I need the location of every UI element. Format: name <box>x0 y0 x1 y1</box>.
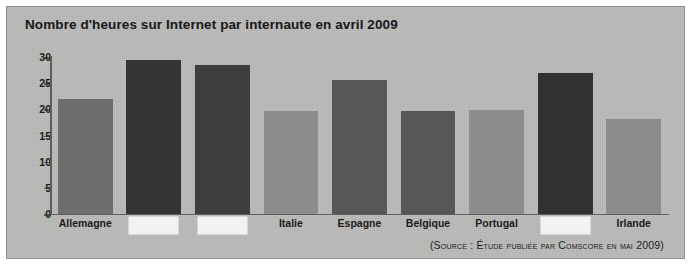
y-axis-tick-label: 5 <box>17 182 51 194</box>
y-axis-tick-label: 30 <box>17 51 51 63</box>
x-axis-category-label: Espagne <box>325 217 394 229</box>
bar <box>126 60 181 214</box>
x-axis-category-label: Belgique <box>394 217 463 229</box>
source-note: (Source : Étude publiée par Comscore en … <box>430 239 664 251</box>
bar <box>58 99 113 214</box>
bar <box>401 111 456 214</box>
x-axis-category-label: Portugal <box>462 217 531 229</box>
y-axis-tick-label: 0 <box>17 208 51 220</box>
y-axis-line <box>50 56 52 215</box>
y-axis-ticks: 051015202530 <box>7 7 51 279</box>
x-axis-line <box>50 214 669 216</box>
chart-figure: Nombre d'heures sur Internet par interna… <box>6 6 685 259</box>
redacted-category-label <box>197 216 248 235</box>
x-axis-category-label: Italie <box>257 217 326 229</box>
y-axis-tick-label: 20 <box>17 103 51 115</box>
bar <box>264 111 319 214</box>
x-axis-category-label: Irlande <box>599 217 668 229</box>
y-axis-tick-label: 15 <box>17 130 51 142</box>
plot-area <box>51 57 668 214</box>
chart-title: Nombre d'heures sur Internet par interna… <box>25 17 398 32</box>
bar <box>195 65 250 214</box>
bar <box>538 73 593 214</box>
bar <box>332 80 387 214</box>
x-axis-category-label: Allemagne <box>51 217 120 229</box>
y-axis-tick-label: 25 <box>17 77 51 89</box>
redacted-category-label <box>540 216 591 235</box>
redacted-category-label <box>128 216 179 235</box>
bar <box>606 119 661 214</box>
bar <box>469 110 524 214</box>
y-axis-tick-label: 10 <box>17 156 51 168</box>
